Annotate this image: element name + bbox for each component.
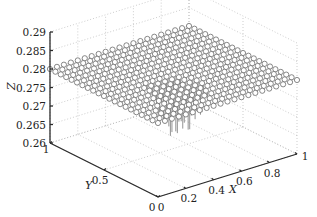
z-tick-label: 0.27 <box>23 100 46 112</box>
data-point-marker <box>192 26 197 31</box>
data-point-marker <box>165 91 170 96</box>
data-point-marker <box>152 34 157 39</box>
data-point-marker <box>166 69 171 74</box>
data-point-marker <box>259 71 264 76</box>
data-point-marker <box>107 57 112 62</box>
data-point-marker <box>169 37 174 42</box>
data-point-marker <box>162 79 167 84</box>
x-tick <box>295 153 297 155</box>
z-tick-label: 0.28 <box>23 63 46 75</box>
data-point-marker <box>183 72 188 77</box>
z-tick-label: 0.29 <box>23 26 46 38</box>
data-point-marker <box>239 55 244 60</box>
data-point-marker <box>152 113 157 118</box>
data-point-marker <box>193 43 198 48</box>
data-point-marker <box>100 59 105 64</box>
data-point-marker <box>203 71 208 76</box>
data-point-marker <box>80 83 85 88</box>
data-point-marker <box>155 103 160 108</box>
data-point-marker <box>94 78 99 83</box>
data-point-marker <box>119 57 124 62</box>
data-point-marker <box>178 109 183 114</box>
data-point-marker <box>136 83 141 88</box>
data-point-marker <box>139 56 144 61</box>
data-point-marker <box>212 81 217 86</box>
data-point-marker <box>72 68 77 73</box>
z-tick-label: 0.285 <box>16 45 46 57</box>
data-point-marker <box>187 80 192 85</box>
data-point-marker <box>81 61 86 66</box>
data-point-marker <box>114 55 119 60</box>
data-point-marker <box>217 44 222 49</box>
data-point-marker <box>133 53 138 58</box>
data-point-marker <box>89 54 94 59</box>
data-point-marker <box>95 73 100 78</box>
data-point-marker <box>223 87 228 92</box>
data-point-marker <box>228 50 233 55</box>
data-point-marker <box>142 63 147 68</box>
data-point-marker <box>192 65 197 70</box>
data-point-marker <box>169 99 174 104</box>
3d-stem-plot: 0.260.2650.270.2750.280.2850.2900.20.40.… <box>0 0 317 217</box>
data-point-marker <box>204 66 209 71</box>
data-point-marker <box>210 47 215 52</box>
data-point-marker <box>218 62 223 67</box>
data-point-marker <box>128 68 133 73</box>
data-point-marker <box>190 70 195 75</box>
data-point-marker <box>245 75 250 80</box>
data-point-marker <box>207 56 212 61</box>
data-point-marker <box>157 116 162 121</box>
data-point-marker <box>126 55 131 60</box>
data-point-marker <box>177 92 182 97</box>
data-point-marker <box>198 46 203 51</box>
data-point-marker <box>178 30 183 35</box>
data-point-marker <box>151 96 156 101</box>
x-tick <box>184 187 186 189</box>
data-point-marker <box>132 75 137 80</box>
data-point-marker <box>176 57 181 62</box>
data-point-marker <box>146 71 151 76</box>
data-point-marker <box>171 72 176 77</box>
data-point-marker <box>166 47 171 52</box>
data-point-marker <box>248 66 253 71</box>
data-point-marker <box>160 106 165 111</box>
data-point-marker <box>216 89 221 94</box>
data-point-marker <box>157 37 162 42</box>
data-point-marker <box>237 82 242 87</box>
data-point-marker <box>157 76 162 81</box>
data-point-marker <box>113 77 118 82</box>
y-tick-label: 1 <box>43 143 50 155</box>
data-point-marker <box>156 98 161 103</box>
data-point-marker <box>237 60 242 65</box>
data-point-marker <box>146 110 151 115</box>
data-point-marker <box>230 45 235 50</box>
data-point-marker <box>144 58 149 63</box>
data-point-marker <box>184 50 189 55</box>
data-point-marker <box>206 39 211 44</box>
data-point-marker <box>87 80 92 85</box>
data-point-marker <box>101 54 106 59</box>
data-point-marker <box>158 54 163 59</box>
data-point-marker <box>164 35 169 40</box>
data-point-marker <box>260 88 265 93</box>
data-point-marker <box>115 72 120 77</box>
x-tick <box>239 170 241 172</box>
data-point-marker <box>85 85 90 90</box>
data-point-marker <box>116 67 121 72</box>
data-point-marker <box>294 77 299 82</box>
data-point-marker <box>213 98 218 103</box>
data-point-marker <box>135 48 140 53</box>
data-point-marker <box>139 73 144 78</box>
data-point-marker <box>275 79 280 84</box>
data-point-marker <box>169 77 174 82</box>
back-grid-z <box>50 0 189 32</box>
data-point-marker <box>178 70 183 75</box>
y-tick-label: 0.5 <box>92 174 109 186</box>
data-point-marker <box>188 97 193 102</box>
data-point-marker <box>209 91 214 96</box>
data-point-marker <box>145 115 150 120</box>
data-point-marker <box>111 82 116 87</box>
data-point-marker <box>196 34 201 39</box>
data-point-marker <box>184 90 189 95</box>
data-point-marker <box>105 62 110 67</box>
